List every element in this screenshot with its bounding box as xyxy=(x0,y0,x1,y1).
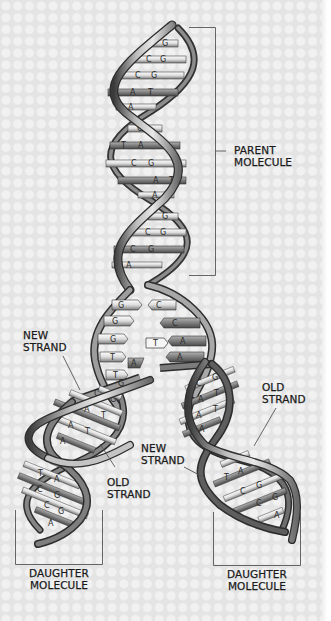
svg-text:A: A xyxy=(138,141,144,150)
svg-text:G: G xyxy=(112,317,118,326)
svg-text:C: C xyxy=(130,245,136,254)
svg-text:C: C xyxy=(146,55,152,64)
svg-text:T: T xyxy=(120,141,126,150)
svg-text:A: A xyxy=(60,437,66,446)
svg-text:A: A xyxy=(68,421,74,430)
svg-text:A: A xyxy=(238,467,244,476)
svg-text:A: A xyxy=(130,88,136,97)
svg-text:G: G xyxy=(110,335,116,344)
svg-text:T: T xyxy=(223,473,229,482)
parent-molecule-label: PARENT MOLECULE xyxy=(234,145,292,168)
old-strand-left-label: OLD STRAND xyxy=(107,477,151,500)
svg-text:C: C xyxy=(135,71,141,80)
svg-text:T: T xyxy=(147,88,153,97)
left-daughter-helix: G C G A T A T A G T A C G C G A xyxy=(17,379,150,544)
svg-text:G: G xyxy=(151,71,157,80)
svg-text:C: C xyxy=(44,501,50,510)
svg-text:A: A xyxy=(126,261,132,270)
svg-text:A: A xyxy=(274,511,280,520)
svg-text:C: C xyxy=(37,485,43,494)
svg-text:T: T xyxy=(109,353,115,362)
svg-text:C: C xyxy=(256,499,262,508)
svg-text:C: C xyxy=(156,301,162,310)
svg-text:T: T xyxy=(212,405,218,414)
svg-text:C: C xyxy=(172,319,178,328)
svg-text:T: T xyxy=(152,339,158,348)
svg-text:A: A xyxy=(131,359,137,368)
svg-text:A: A xyxy=(180,337,186,346)
svg-text:T: T xyxy=(213,389,219,398)
svg-text:A: A xyxy=(54,475,60,484)
svg-text:G: G xyxy=(58,507,64,516)
dna-replication-diagram: G C G C G A T A G T A C G A T A G C G C … xyxy=(0,0,331,621)
parent-helix: G C G C G A T A G T A C G A T A G C G C … xyxy=(106,25,194,290)
svg-text:A: A xyxy=(153,176,159,185)
svg-text:G: G xyxy=(272,493,278,502)
svg-text:G: G xyxy=(160,55,166,64)
svg-text:T: T xyxy=(100,411,106,420)
svg-text:A: A xyxy=(48,519,54,528)
new-strand-center-label: NEW STRAND xyxy=(141,443,185,466)
svg-text:G: G xyxy=(256,481,262,490)
old-strand-right-label: OLD STRAND xyxy=(262,382,306,405)
svg-text:G: G xyxy=(162,212,168,221)
svg-text:C: C xyxy=(131,159,137,168)
daughter-molecule-left-label: DAUGHTER MOLECULE xyxy=(14,568,104,591)
new-strand-left-label: NEW STRAND xyxy=(23,330,67,353)
old-strand-right-leader xyxy=(254,408,276,446)
daughter-molecule-right-label: DAUGHTER MOLECULE xyxy=(212,569,302,592)
svg-text:A: A xyxy=(177,353,183,362)
svg-text:G: G xyxy=(148,159,154,168)
svg-text:C: C xyxy=(145,228,151,237)
svg-text:G: G xyxy=(54,491,60,500)
svg-text:A: A xyxy=(198,395,204,404)
svg-text:A: A xyxy=(196,411,202,420)
svg-text:T: T xyxy=(84,427,90,436)
svg-text:C: C xyxy=(240,487,246,496)
svg-text:G: G xyxy=(148,245,154,254)
svg-text:G: G xyxy=(160,228,166,237)
svg-text:G: G xyxy=(118,301,124,310)
svg-text:T: T xyxy=(37,469,43,478)
free-nucleotides: T A xyxy=(128,338,168,368)
new-strand-left-leader xyxy=(63,356,80,390)
svg-text:A: A xyxy=(152,191,158,200)
svg-text:G: G xyxy=(162,39,168,48)
